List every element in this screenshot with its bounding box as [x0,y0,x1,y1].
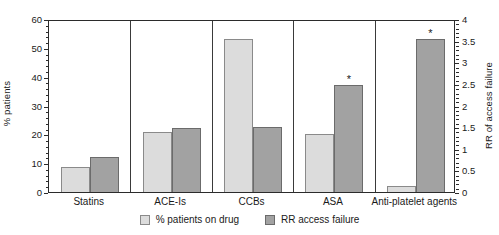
chart-panel: * [293,21,374,192]
bar-rr-access-failure [90,157,119,192]
tickmark-minor [456,33,459,34]
bar-percent-patients [305,134,334,192]
y-axis-right-tick-label: 2 [462,102,467,112]
tickmark-minor [456,94,459,95]
y-axis-left-tick-label: 60 [31,15,42,25]
x-axis-category-label: ASA [323,196,343,207]
y-axis-left-tick-label: 40 [31,73,42,83]
tickmark-minor [456,119,459,120]
bar-rr-access-failure [172,128,201,192]
y-axis-right-tick-label: 3 [462,58,467,68]
tickmark [455,193,459,194]
panel-bar-group [213,21,293,192]
bar-rr-access-failure: * [334,85,363,192]
tickmark-minor [456,46,459,47]
y-axis-right-tick-label: 1 [462,145,467,155]
tickmark-minor [456,115,459,116]
y-axis-left-tick-label: 10 [31,159,42,169]
tickmark-minor [456,176,459,177]
y-axis-left-tick-label: 50 [31,44,42,54]
panel-bar-group [49,21,130,192]
tickmark-minor [456,89,459,90]
y-axis-left-tick-label: 0 [37,188,42,198]
bar-percent-patients [143,132,172,192]
y-axis-right-tick-labels: 00.511.522.533.54 [462,0,492,235]
tickmark-minor [456,180,459,181]
tickmark-minor [456,50,459,51]
tickmark-minor [456,81,459,82]
tickmark-minor [456,132,459,133]
significance-asterisk: * [428,28,432,39]
bar-rr-access-failure [253,127,282,192]
y-axis-right-tick-label: 1.5 [462,123,475,133]
plot-area: ** [48,20,455,193]
chart-panel [212,21,293,192]
x-axis-category-label: Statins [73,196,104,207]
y-axis-left-tick-labels: 0102030405060 [16,0,42,235]
dark-gray-swatch [265,215,275,225]
legend-label: RR access failure [281,214,359,225]
tickmark-minor [456,37,459,38]
y-axis-left-title: % patients [1,74,12,134]
tickmark-minor [456,72,459,73]
y-axis-left-tick-label: 30 [31,102,42,112]
y-axis-right-tick-label: 4 [462,15,467,25]
panel-bar-group: * [294,21,374,192]
tickmark-minor [456,29,459,30]
bar-percent-patients [224,39,253,192]
bar-percent-patients [387,186,416,192]
legend-item: RR access failure [265,214,359,225]
light-gray-swatch [140,215,150,225]
y-axis-right-tick-label: 3.5 [462,37,475,47]
tickmark-minor [456,163,459,164]
tickmark-minor [456,167,459,168]
y-axis-left-tick-label: 20 [31,130,42,140]
significance-asterisk: * [347,74,351,85]
tickmark-minor [456,24,459,25]
chart-panel [49,21,130,192]
tickmark-minor [456,184,459,185]
tickmark-minor [456,145,459,146]
y-axis-right-tick-label: 2.5 [462,80,475,90]
tickmark-minor [456,76,459,77]
x-axis-category-labels: StatinsACE-IsCCBsASAAnti-platelet agents [48,196,455,212]
bar-rr-access-failure: * [416,39,445,192]
chart-panel: * [375,21,456,192]
bar-chart-figure: % patients RR of access failure 01020304… [0,0,499,235]
tickmark-minor [456,154,459,155]
tickmark [44,193,48,194]
tickmark-minor [456,68,459,69]
y-axis-right-tick-label: 0 [462,188,467,198]
chart-panel [130,21,211,192]
tickmark-minor [456,141,459,142]
legend-item: % patients on drug [140,214,239,225]
tickmark-minor [456,189,459,190]
tickmark-minor [456,55,459,56]
tickmark-minor [456,59,459,60]
x-axis-category-label: CCBs [238,196,264,207]
panel-bar-group: * [376,21,456,192]
tickmark-minor [456,137,459,138]
tickmark-minor [456,158,459,159]
x-axis-category-label: Anti-platelet agents [371,196,457,207]
tickmark-minor [456,102,459,103]
bar-percent-patients [61,167,90,192]
tickmark-minor [456,124,459,125]
tickmark-minor [456,111,459,112]
panel-bar-group [131,21,211,192]
tickmark-minor [456,98,459,99]
legend-label: % patients on drug [156,214,239,225]
y-axis-right-tick-label: 0.5 [462,166,475,176]
x-axis-category-label: ACE-Is [154,196,186,207]
chart-legend: % patients on drugRR access failure [0,214,499,225]
